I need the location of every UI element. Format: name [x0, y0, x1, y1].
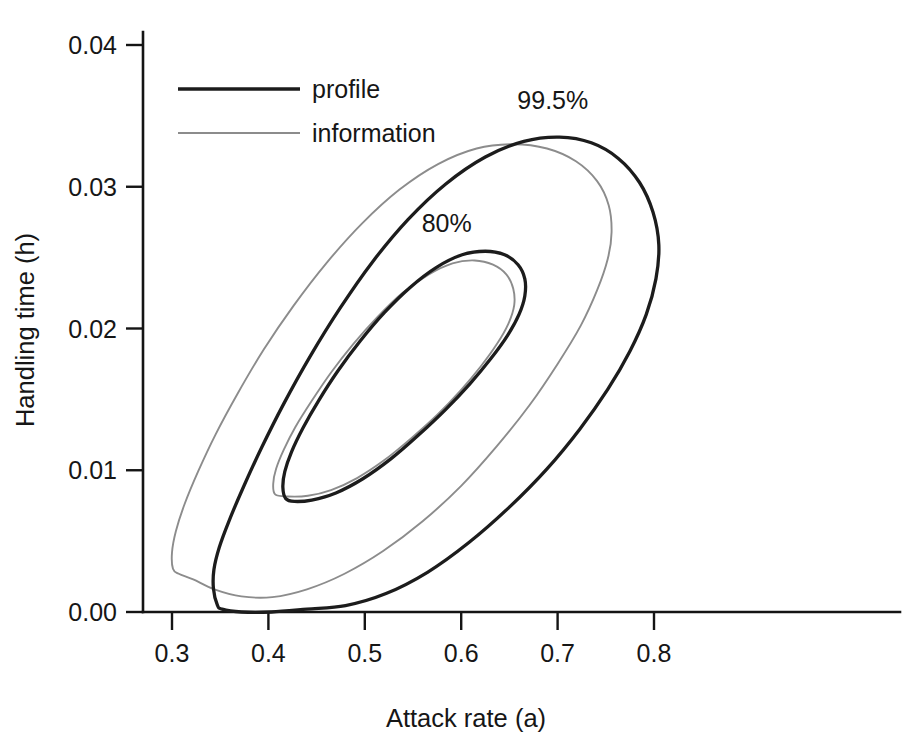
x-tick-label: 0.3: [155, 639, 190, 667]
legend-label-profile: profile: [312, 75, 380, 103]
contour-label-inner: 80%: [422, 209, 472, 237]
contour-annotations-group: 99.5%80%: [422, 86, 589, 237]
y-axis-title: Handling time (h): [11, 233, 39, 427]
legend-label-information: information: [312, 119, 436, 147]
figure-container: 0.000.010.020.030.040.30.40.50.60.70.8 9…: [0, 0, 920, 748]
y-tick-label: 0.00: [68, 598, 117, 626]
legend-group: profileinformation: [178, 75, 436, 147]
axis-lines-group: [143, 32, 900, 612]
contour-label-outer: 99.5%: [517, 86, 588, 114]
contours-group: [172, 137, 659, 612]
contour-information-80: [273, 260, 515, 496]
y-tick-label: 0.04: [68, 31, 117, 59]
y-tick-label: 0.02: [68, 315, 117, 343]
contour-profile-80: [283, 251, 526, 501]
x-tick-label: 0.5: [347, 639, 382, 667]
contour-information-995: [172, 144, 612, 598]
x-tick-label: 0.4: [251, 639, 286, 667]
x-tick-label: 0.7: [540, 639, 575, 667]
x-tick-label: 0.8: [637, 639, 672, 667]
y-tick-label: 0.03: [68, 173, 117, 201]
plot-canvas: 0.000.010.020.030.040.30.40.50.60.70.8 9…: [0, 0, 920, 748]
x-axis-title: Attack rate (a): [386, 704, 546, 732]
y-tick-label: 0.01: [68, 456, 117, 484]
x-tick-label: 0.6: [444, 639, 479, 667]
